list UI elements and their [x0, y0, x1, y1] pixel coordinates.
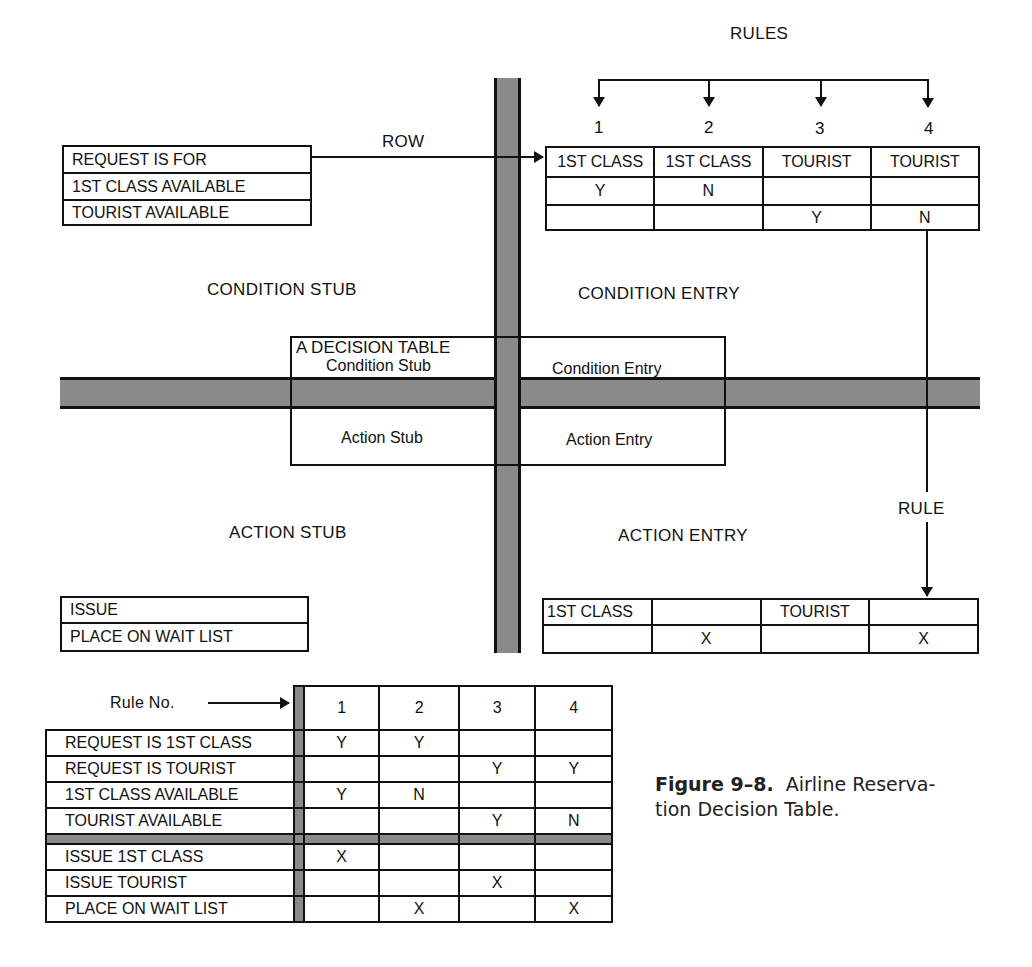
condition-row: REQUEST IS 1ST CLASS Y Y: [46, 730, 612, 756]
figure-caption: Figure 9–8. Airline Reserva- tion Decisi…: [655, 772, 935, 822]
entry-cell: X: [379, 896, 459, 922]
entry-cell: Y: [459, 756, 536, 782]
rule-number-cell: 4: [535, 686, 612, 730]
action-stub: ISSUE TOURIST: [46, 870, 294, 896]
entry-cell: [379, 756, 459, 782]
condition-stub: REQUEST IS TOURIST: [46, 756, 294, 782]
entry-cell: [535, 782, 612, 808]
condition-row: TOURIST AVAILABLE Y N: [46, 808, 612, 834]
figure-number: Figure 9–8.: [655, 773, 774, 795]
entry-cell: [304, 896, 380, 922]
rule-number-cell: 1: [304, 686, 380, 730]
entry-cell: X: [459, 870, 536, 896]
rules-bracket-arrows: [599, 79, 929, 107]
stub-divider: [294, 686, 304, 730]
entry-cell: [304, 870, 380, 896]
condition-row: 1ST CLASS AVAILABLE Y N: [46, 782, 612, 808]
entry-cell: Y: [459, 808, 536, 834]
entry-cell: [535, 870, 612, 896]
rule-number-cell: 3: [459, 686, 536, 730]
entry-cell: Y: [304, 730, 380, 756]
rule-number-cell: 2: [379, 686, 459, 730]
condition-row: REQUEST IS TOURIST Y Y: [46, 756, 612, 782]
entry-cell: [459, 782, 536, 808]
condition-stub: REQUEST IS 1ST CLASS: [46, 730, 294, 756]
entry-cell: N: [535, 808, 612, 834]
entry-cell: [535, 844, 612, 870]
entry-cell: [379, 808, 459, 834]
condition-stub: TOURIST AVAILABLE: [46, 808, 294, 834]
entry-cell: Y: [535, 756, 612, 782]
entry-cell: Y: [304, 782, 380, 808]
action-stub: ISSUE 1ST CLASS: [46, 844, 294, 870]
entry-cell: X: [535, 896, 612, 922]
condition-stub: 1ST CLASS AVAILABLE: [46, 782, 294, 808]
action-stub: PLACE ON WAIT LIST: [46, 896, 294, 922]
entry-cell: [304, 808, 380, 834]
entry-cell: [535, 730, 612, 756]
entry-cell: Y: [379, 730, 459, 756]
entry-cell: [304, 756, 380, 782]
entry-cell: [459, 844, 536, 870]
caption-text-line2: tion Decision Table.: [655, 797, 935, 822]
entry-cell: [459, 730, 536, 756]
condition-action-separator: [46, 834, 612, 844]
entry-cell: X: [304, 844, 380, 870]
action-row: ISSUE 1ST CLASS X: [46, 844, 612, 870]
entry-cell: [459, 896, 536, 922]
airline-decision-table: 1 2 3 4 REQUEST IS 1ST CLASS Y Y REQUEST…: [45, 685, 613, 923]
caption-text-line1: Airline Reserva-: [786, 773, 936, 795]
action-row: PLACE ON WAIT LIST X X: [46, 896, 612, 922]
entry-cell: [379, 870, 459, 896]
action-row: ISSUE TOURIST X: [46, 870, 612, 896]
entry-cell: [379, 844, 459, 870]
entry-cell: N: [379, 782, 459, 808]
